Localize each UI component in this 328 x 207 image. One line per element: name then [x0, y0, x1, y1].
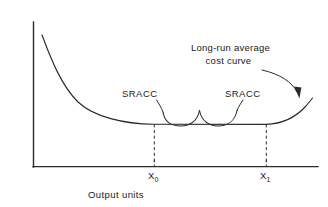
sracc-leader-1	[157, 100, 164, 112]
sracc-leader-2	[237, 100, 243, 111]
x-tick-label-x0-subscript: 0	[155, 176, 159, 183]
lrac-annotation-arrow-shaft	[262, 70, 297, 92]
x-tick-label-x0: X0	[148, 170, 158, 183]
sracc-arc-2	[200, 111, 238, 127]
x-tick-label-x1: X1	[260, 170, 270, 183]
cost-curve-figure: Average total unit costs £ Output units …	[0, 0, 328, 207]
lrac-annotation-arrowhead	[294, 87, 301, 99]
chart-canvas	[0, 0, 328, 207]
sracc-arc-1	[163, 111, 200, 127]
lrac-annotation-line-1: Long-run average	[191, 42, 270, 53]
sracc-label-1: SRACC	[122, 88, 158, 99]
x-tick-label-x1-subscript: 1	[267, 176, 271, 183]
x-axis-title: Output units	[88, 189, 144, 200]
sracc-label-2: SRACC	[225, 88, 261, 99]
lrac-annotation: Long-run averagecost curve	[191, 42, 270, 67]
lrac-annotation-line-2: cost curve	[191, 55, 270, 68]
lrac-curve	[42, 35, 313, 124]
